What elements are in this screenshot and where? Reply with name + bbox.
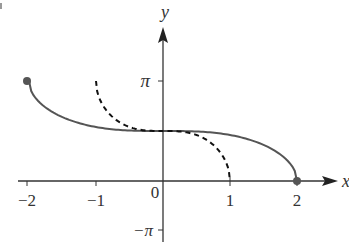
x-axis-label: x — [341, 171, 349, 191]
tick-label-neg1: −1 — [87, 191, 105, 210]
y-axis-label: y — [159, 2, 169, 22]
origin-label: 0 — [151, 183, 160, 202]
endpoint-left — [23, 77, 31, 85]
y-tick-label-neg-pi: −π — [133, 221, 153, 240]
y-tick-label-pi: π — [140, 70, 150, 91]
tick-label-neg2: −2 — [18, 191, 36, 210]
tick-label-2: 2 — [293, 191, 302, 210]
y-ticks — [158, 81, 163, 230]
cropped-glyph-mark — [0, 3, 2, 9]
chart-canvas: −2 −1 0 1 2 π −π y x — [0, 0, 349, 242]
tick-label-1: 1 — [226, 191, 235, 210]
endpoint-right — [293, 177, 301, 185]
